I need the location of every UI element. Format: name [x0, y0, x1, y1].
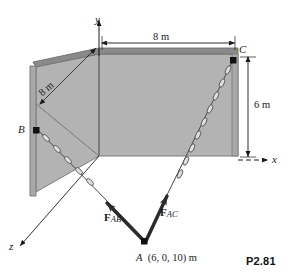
point-a-coordinates: (6, 0, 10) m: [148, 252, 197, 263]
point-marker-c: [230, 57, 237, 64]
diagram-canvas: [0, 0, 298, 274]
point-marker-a: [141, 238, 148, 245]
force-ac-symbol: F: [160, 206, 167, 218]
point-a-annotation: A (6, 0, 10) m: [136, 253, 197, 264]
point-label-b: B: [18, 124, 25, 135]
force-label-ac: FAC: [160, 207, 178, 219]
figure-number: P2.81: [246, 255, 276, 267]
dimension-label-top: 8 m: [153, 32, 169, 43]
y-axis-label: y: [95, 14, 100, 25]
force-ab-subscript: AB: [111, 214, 121, 224]
dimension-label-height: 6 m: [254, 100, 270, 111]
point-label-c: C: [239, 44, 246, 55]
z-axis-label: z: [9, 241, 13, 252]
force-ac-subscript: AC: [167, 209, 178, 219]
right-wall-edge-strip: [232, 54, 238, 156]
oblique-wall-panel: [36, 54, 99, 192]
point-marker-b: [33, 127, 40, 134]
right-wall-top-bevel: [99, 48, 238, 54]
force-label-ab: FAB: [104, 212, 121, 224]
x-axis-label: x: [272, 154, 277, 165]
right-wall-panel: [99, 54, 238, 156]
force-ab-symbol: F: [104, 211, 111, 223]
point-label-a: A: [136, 252, 142, 263]
figure-container: y x z B C 8 m 8 m 6 m FAB FAC A (6, 0, 1…: [0, 0, 298, 274]
